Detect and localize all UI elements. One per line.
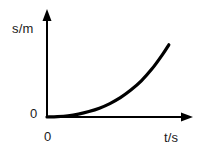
y-axis-arrow-icon	[43, 9, 52, 21]
distance-time-graph-figure: s/m t/s 0 0	[0, 0, 202, 153]
x-axis-label: t/s	[164, 131, 178, 144]
x-axis-origin-label: 0	[44, 130, 51, 143]
y-axis-label: s/m	[12, 22, 34, 35]
y-axis-origin-label: 0	[30, 107, 37, 120]
x-axis-arrow-icon	[181, 113, 193, 122]
distance-time-curve	[47, 45, 169, 117]
